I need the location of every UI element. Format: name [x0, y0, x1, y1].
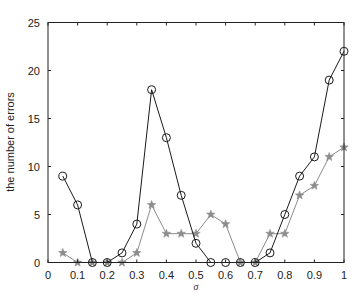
y-tick-label: 5 — [34, 209, 40, 221]
x-tick-label: 0.2 — [100, 269, 115, 281]
x-tick-label: 0.4 — [159, 269, 174, 281]
x-tick-label: 0.7 — [248, 269, 263, 281]
line-chart: 00.10.20.30.40.50.60.70.80.91 0510152025… — [0, 0, 364, 302]
y-axis-label: the number of errors — [4, 92, 16, 192]
x-tick-label: 0 — [45, 269, 51, 281]
y-tick-label: 15 — [28, 113, 40, 125]
x-tick-label: 0.1 — [70, 269, 85, 281]
y-tick-label: 20 — [28, 65, 40, 77]
x-tick-label: 0.3 — [129, 269, 144, 281]
y-tick-label: 25 — [28, 17, 40, 29]
x-tick-label: 0.9 — [307, 269, 322, 281]
x-axis-label: σ — [194, 281, 200, 292]
plot-area — [48, 23, 344, 263]
x-tick-label: 0.5 — [188, 269, 203, 281]
x-tick-label: 0.8 — [277, 269, 292, 281]
y-tick-label: 0 — [34, 257, 40, 269]
x-tick-label: 0.6 — [218, 269, 233, 281]
y-tick-label: 10 — [28, 161, 40, 173]
x-tick-label: 1 — [341, 269, 347, 281]
